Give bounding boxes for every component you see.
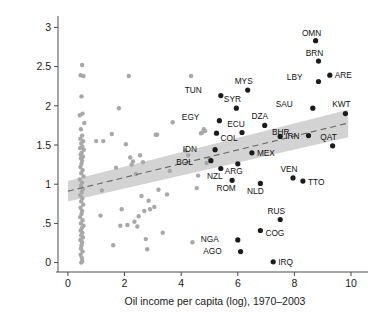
- country-label-ago: AGO: [203, 246, 222, 256]
- background-data-point: [189, 74, 193, 78]
- background-data-point: [165, 192, 169, 196]
- country-data-point-irq: [271, 259, 276, 264]
- country-label-rus: RUS: [267, 206, 285, 216]
- background-data-point: [125, 223, 129, 227]
- country-label-tto: TTO: [308, 177, 325, 187]
- background-data-point: [195, 186, 199, 190]
- country-data-point-egy: [217, 118, 222, 123]
- background-data-point: [82, 121, 86, 125]
- country-label-cog: COG: [265, 228, 284, 238]
- background-data-point: [171, 120, 175, 124]
- background-data-point: [204, 161, 208, 165]
- country-data-point-bhr: [306, 133, 311, 138]
- background-data-point: [137, 214, 141, 218]
- country-data-point-tto: [300, 179, 305, 184]
- country-data-point-ago: [238, 249, 243, 254]
- x-tick-label: 6: [235, 277, 241, 289]
- x-tick-label: 2: [122, 277, 128, 289]
- country-data-point-lby: [316, 79, 321, 84]
- country-data-point-mex: [249, 150, 254, 155]
- country-label-ven: VEN: [280, 164, 297, 174]
- country-data-point-ven: [290, 175, 295, 180]
- background-data-point: [138, 153, 142, 157]
- background-data-point: [128, 155, 132, 159]
- background-data-point: [79, 127, 83, 131]
- background-data-point: [117, 106, 121, 110]
- country-label-mys: MYS: [235, 76, 253, 86]
- country-label-arg: ARG: [225, 166, 243, 176]
- background-data-point: [79, 94, 83, 98]
- country-label-brn: BRN: [306, 48, 324, 58]
- country-data-point-bol: [208, 158, 213, 163]
- x-axis-title: Oil income per capita (log), 1970–2003: [125, 295, 306, 307]
- background-data-point: [124, 142, 128, 146]
- background-data-point: [155, 133, 159, 137]
- plot-canvas: OMNBRNLBYAREMYSTUNSYRSAUKWTEGYDZAECUCOLI…: [0, 0, 376, 312]
- background-data-point: [203, 129, 207, 133]
- country-label-tun: TUN: [185, 85, 202, 95]
- y-tick-label: 3: [45, 21, 51, 33]
- country-label-sau: SAU: [276, 99, 293, 109]
- background-data-point: [81, 74, 85, 78]
- x-axis-ticks: 0246810: [65, 272, 357, 289]
- background-data-point: [190, 240, 194, 244]
- y-tick-label: 1.5: [36, 139, 51, 151]
- country-data-point-qat: [330, 143, 335, 148]
- country-label-kwt: KWT: [332, 99, 350, 109]
- country-data-point-cog: [258, 228, 263, 233]
- country-data-point-nga: [235, 237, 240, 242]
- x-tick-label: 10: [345, 277, 357, 289]
- country-label-are: ARE: [335, 70, 353, 80]
- background-data-point: [100, 188, 104, 192]
- country-label-lby: LBY: [287, 72, 303, 82]
- country-data-point-mys: [245, 88, 250, 93]
- y-axis-ticks: 0.511.522.53: [36, 21, 58, 268]
- background-data-point: [132, 220, 136, 224]
- y-tick-label: .5: [42, 217, 51, 229]
- country-label-bhr: BHR: [272, 127, 290, 137]
- country-data-point-col: [214, 131, 219, 136]
- y-tick-label: 1: [45, 178, 51, 190]
- country-data-point-sau: [310, 106, 315, 111]
- background-data-point: [98, 213, 102, 217]
- country-data-point-idn: [213, 147, 218, 152]
- country-label-mex: MEX: [257, 148, 275, 158]
- country-data-point-ecu: [239, 130, 244, 135]
- country-data-point-omn: [313, 38, 318, 43]
- country-label-ecu: ECU: [227, 119, 245, 129]
- background-data-point: [101, 139, 105, 143]
- background-data-point: [79, 260, 83, 264]
- confidence-band-group: [68, 110, 348, 202]
- x-tick-label: 4: [178, 277, 184, 289]
- country-label-dza: DZA: [251, 111, 268, 121]
- country-label-rom: ROM: [216, 183, 235, 193]
- country-label-egy: EGY: [182, 112, 200, 122]
- background-data-point: [114, 166, 118, 170]
- country-label-idn: IDN: [183, 144, 197, 154]
- x-tick-label: 0: [65, 277, 71, 289]
- background-data-point: [78, 113, 82, 117]
- confidence-band: [68, 110, 348, 202]
- background-data-point: [135, 224, 139, 228]
- country-data-point-rus: [278, 217, 283, 222]
- background-data-point: [144, 237, 148, 241]
- background-data-point: [81, 174, 85, 178]
- country-data-point-are: [327, 73, 332, 78]
- country-data-point-syr: [234, 106, 239, 111]
- x-tick-label: 8: [291, 277, 297, 289]
- country-label-bol: BOL: [176, 157, 193, 167]
- background-data-point: [142, 209, 146, 213]
- country-label-col: COL: [221, 133, 238, 143]
- background-data-point: [168, 169, 172, 173]
- country-data-point-tun: [218, 93, 223, 98]
- background-data-point: [141, 160, 145, 164]
- country-label-nga: NGA: [201, 234, 219, 244]
- country-label-syr: SYR: [224, 94, 241, 104]
- country-data-point-brn: [316, 59, 321, 64]
- y-tick-label: 2: [45, 100, 51, 112]
- background-data-point: [111, 243, 115, 247]
- country-label-nld: NLD: [247, 186, 264, 196]
- background-data-point: [148, 207, 152, 211]
- country-data-point-nld: [258, 181, 263, 186]
- country-label-nzl: NZL: [207, 171, 223, 181]
